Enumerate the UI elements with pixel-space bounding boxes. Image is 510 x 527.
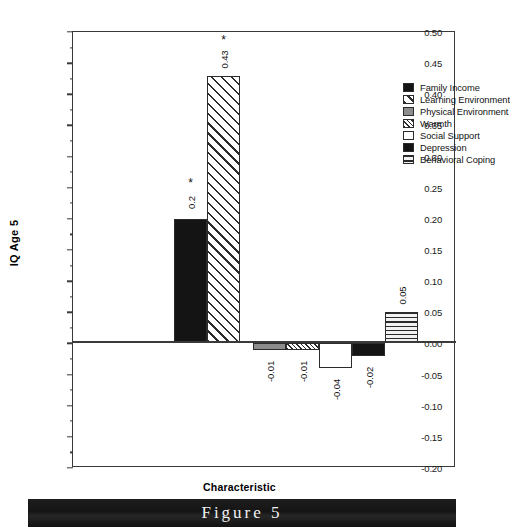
y-tick-minor: [70, 265, 74, 266]
legend-item-physical-environment: Physical Environment: [403, 106, 510, 118]
y-tick-minor: [70, 452, 74, 453]
legend-swatch-icon: [403, 143, 414, 152]
bar-value-label: -0.04: [330, 376, 341, 404]
legend-swatch-icon: [403, 95, 414, 104]
x-axis-label: Characteristic: [0, 481, 479, 493]
y-tick-minor: [70, 390, 74, 391]
y-tick-minor: [70, 47, 74, 48]
legend-item-social-support: Social Support: [403, 130, 510, 142]
y-tick-mark: [67, 280, 73, 281]
legend-label: Social Support: [420, 131, 480, 141]
y-tick-minor: [70, 78, 74, 79]
legend-swatch-icon: [403, 131, 414, 140]
y-tick-minor: [70, 327, 74, 328]
bar-family-income: [174, 219, 207, 344]
y-tick-mark: [67, 374, 73, 375]
y-tick-label: 0.15: [396, 245, 442, 256]
legend-label: Warmth: [420, 119, 452, 129]
bar-physical-environment: [253, 343, 286, 349]
bar-value-label: 0.05: [396, 282, 407, 310]
legend-label: Depression: [420, 143, 467, 153]
bar-value-label: 0.43: [218, 45, 229, 73]
y-tick-label: -0.15: [396, 431, 442, 442]
y-tick-mark: [67, 436, 73, 437]
figure-caption-banner: Figure 5: [28, 499, 456, 527]
y-tick-label: 0.50: [396, 27, 442, 38]
y-tick-mark: [67, 343, 73, 344]
bar-value-label: -0.02: [363, 363, 374, 391]
legend-label: Physical Environment: [420, 107, 508, 117]
bar-behavioral-coping: [385, 312, 418, 343]
y-tick-minor: [70, 234, 74, 235]
y-tick-minor: [70, 358, 74, 359]
legend-swatch-icon: [403, 119, 414, 128]
y-tick-mark: [67, 94, 73, 95]
figure-caption-text: Figure 5: [28, 499, 456, 527]
zero-baseline: [72, 341, 456, 343]
plot-area: 0.500.450.400.350.300.250.200.150.100.05…: [72, 31, 455, 467]
legend-label: Learning Environment: [420, 95, 510, 105]
y-tick-minor: [70, 421, 74, 422]
y-tick-mark: [67, 405, 73, 406]
y-tick-minor: [70, 140, 74, 141]
chart-legend: Family IncomeLearning EnvironmentPhysica…: [403, 82, 510, 166]
y-tick-minor: [70, 296, 74, 297]
y-tick-mark: [67, 31, 73, 32]
bar-value-label: -0.01: [264, 357, 275, 385]
legend-item-learning-environment: Learning Environment: [403, 94, 510, 106]
y-axis-label: IQ Age 5: [8, 220, 20, 267]
y-tick-mark: [67, 312, 73, 313]
y-tick-mark: [67, 467, 73, 468]
bar-social-support: [319, 343, 352, 368]
significance-marker: *: [210, 34, 238, 46]
bar-warmth: [286, 343, 319, 349]
legend-item-depression: Depression: [403, 142, 510, 154]
y-tick-label: -0.05: [396, 369, 442, 380]
legend-swatch-icon: [403, 107, 414, 116]
y-tick-mark: [67, 156, 73, 157]
y-tick-mark: [67, 249, 73, 250]
y-tick-minor: [70, 203, 74, 204]
legend-label: Family Income: [420, 83, 480, 93]
legend-label: Behavioral Coping: [420, 155, 495, 165]
y-tick-label: -0.20: [396, 463, 442, 474]
bar-value-label: -0.01: [297, 357, 308, 385]
y-tick-label: 0.20: [396, 213, 442, 224]
y-tick-mark: [67, 187, 73, 188]
legend-item-family-income: Family Income: [403, 82, 510, 94]
significance-marker: *: [177, 177, 205, 189]
y-tick-minor: [70, 109, 74, 110]
legend-item-behavioral-coping: Behavioral Coping: [403, 154, 510, 166]
y-tick-minor: [70, 172, 74, 173]
y-tick-label: 0.45: [396, 58, 442, 69]
y-tick-mark: [67, 218, 73, 219]
legend-swatch-icon: [403, 83, 414, 92]
bar-value-label: 0.2: [185, 188, 196, 216]
y-tick-mark: [67, 125, 73, 126]
bar-learning-environment: [207, 76, 240, 344]
legend-swatch-icon: [403, 155, 414, 164]
bar-depression: [352, 343, 385, 355]
y-tick-mark: [67, 62, 73, 63]
legend-item-warmth: Warmth: [403, 118, 510, 130]
y-tick-label: -0.10: [396, 400, 442, 411]
y-tick-label: 0.25: [396, 182, 442, 193]
